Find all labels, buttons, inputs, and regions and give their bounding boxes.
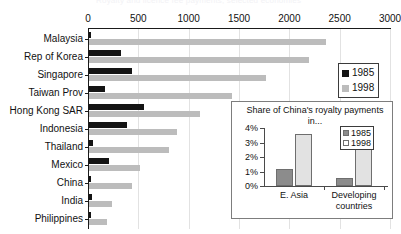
main-x-tick-label: 1000 — [178, 13, 200, 24]
category-label: Indonesia — [40, 124, 83, 134]
inset-bar-1985 — [276, 169, 293, 186]
bar-1985 — [89, 86, 105, 92]
bar-1985 — [89, 176, 91, 182]
bar-1998 — [89, 57, 309, 63]
main-x-tick-label: 2000 — [278, 13, 300, 24]
inset-chart-title: Share of China's royalty payments in... — [240, 105, 390, 127]
legend-label: 1998 — [352, 83, 374, 93]
bar-1998 — [89, 129, 177, 135]
inset-y-tick-label: 3% — [245, 139, 258, 148]
category-label: Mexico — [51, 160, 83, 170]
category-label: Philippines — [35, 214, 83, 224]
bar-1998 — [89, 93, 232, 99]
inset-bar-1998 — [295, 134, 312, 186]
inset-legend-label: 1985 — [351, 129, 371, 138]
bar-1985 — [89, 212, 91, 218]
category-label: Rep of Korea — [24, 52, 83, 62]
bar-1998 — [89, 165, 140, 171]
category-label: Taiwan Prov — [29, 88, 83, 98]
main-x-tick-label: 1500 — [228, 13, 250, 24]
bar-1985 — [89, 122, 127, 128]
inset-y-tick — [260, 186, 264, 187]
main-x-tick-label: 3000 — [379, 13, 401, 24]
inset-y-tick-label: 2% — [245, 153, 258, 162]
bar-1998 — [89, 201, 112, 207]
category-label: Hong Kong SAR — [10, 106, 83, 116]
clipped-chart-title: Royalty and licence fee payments, select… — [96, 0, 396, 6]
bar-1998 — [89, 111, 200, 117]
legend-swatch-icon — [342, 85, 349, 92]
legend-swatch-icon — [342, 70, 349, 77]
bar-1998 — [89, 147, 169, 153]
legend-item: 1985 — [342, 67, 374, 79]
bar-1985 — [89, 104, 144, 110]
inset-bar-1998 — [355, 145, 372, 186]
inset-x-axis — [264, 186, 388, 187]
chart-row: Malaysia — [0, 31, 400, 49]
legend-item: 1998 — [342, 82, 374, 94]
bar-1985 — [89, 50, 121, 56]
bar-1985 — [89, 32, 91, 38]
inset-chart: Share of China's royalty payments in... … — [231, 101, 393, 219]
bar-1998 — [89, 219, 107, 225]
inset-bar-1985 — [336, 178, 353, 186]
bar-1985 — [89, 158, 109, 164]
category-label: Malaysia — [44, 34, 83, 44]
main-x-tick-label: 2500 — [329, 13, 351, 24]
bar-1985 — [89, 68, 132, 74]
inset-legend-item: 1998 — [343, 138, 371, 148]
category-label: Thailand — [45, 142, 83, 152]
bar-1998 — [89, 75, 266, 81]
legend-label: 1985 — [352, 68, 374, 78]
inset-legend-swatch-icon — [343, 140, 349, 146]
inset-category-label: Developing countries — [316, 190, 392, 212]
bar-1998 — [89, 39, 326, 45]
main-x-tick-label: 500 — [130, 13, 147, 24]
inset-legend-item: 1985 — [343, 128, 371, 138]
main-x-tick-label: 0 — [85, 13, 91, 24]
category-label: China — [57, 178, 83, 188]
inset-chart-legend: 19851998 — [340, 126, 374, 150]
inset-y-tick-label: 4% — [245, 124, 258, 133]
inset-y-tick-label: 1% — [245, 168, 258, 177]
inset-legend-label: 1998 — [351, 139, 371, 148]
category-label: Singapore — [37, 70, 83, 80]
main-chart-legend: 19851998 — [338, 63, 379, 98]
bar-1985 — [89, 140, 93, 146]
category-label: India — [61, 196, 83, 206]
inset-legend-swatch-icon — [343, 130, 349, 136]
bar-1998 — [89, 183, 132, 189]
bar-1985 — [89, 194, 92, 200]
